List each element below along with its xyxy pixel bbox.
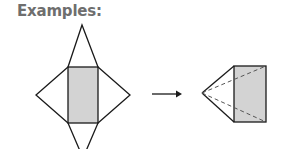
net-left-triangle bbox=[36, 67, 68, 123]
diagram-canvas bbox=[0, 0, 284, 149]
net-right-triangle bbox=[98, 67, 130, 123]
net-top-triangle bbox=[68, 25, 98, 67]
arrow-icon bbox=[152, 91, 182, 98]
pyramid-bottom-edge bbox=[202, 93, 234, 122]
pyramid-net bbox=[36, 25, 130, 149]
pyramid-top-edge bbox=[202, 66, 234, 93]
net-bottom-triangle bbox=[68, 123, 98, 149]
pyramid-shaded-face bbox=[234, 66, 266, 122]
net-base-rectangle bbox=[68, 67, 98, 123]
folded-pyramid bbox=[202, 66, 266, 122]
